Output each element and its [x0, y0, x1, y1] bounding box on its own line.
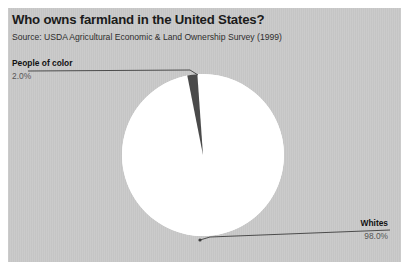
page-title: Who owns farmland in the United States? — [12, 12, 352, 28]
callout-value-people-of-color: 2.0% — [12, 71, 162, 82]
leader-dot-whites — [198, 238, 201, 241]
callout-whites: Whites 98.0% — [300, 218, 388, 242]
callout-value-whites: 98.0% — [300, 231, 388, 242]
callout-label-whites: Whites — [300, 218, 388, 229]
callout-people-of-color: People of color 2.0% — [12, 58, 162, 82]
chart-figure: Who owns farmland in the United States? … — [0, 0, 409, 273]
chart-source-note: Source: USDA Agricultural Economic & Lan… — [12, 32, 372, 43]
callout-label-people-of-color: People of color — [12, 58, 162, 69]
